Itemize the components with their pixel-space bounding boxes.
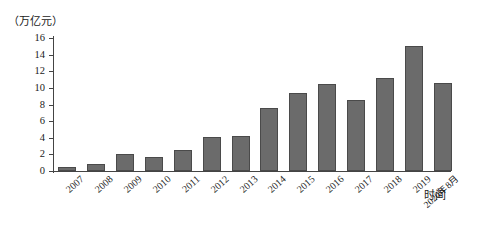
bar <box>203 137 221 171</box>
bar <box>376 78 394 171</box>
bar <box>58 167 76 171</box>
bar-series <box>53 38 457 171</box>
bar-chart: （万亿元） 1614121086420 20072008200920102011… <box>0 0 479 225</box>
x-axis-tick-label: 2007 <box>65 174 87 195</box>
y-axis-tick-label: 6 <box>40 116 45 127</box>
bar <box>347 100 365 171</box>
x-axis-tick-label: 2018 <box>382 174 404 195</box>
x-axis-tick-label: 2010 <box>151 174 173 195</box>
x-axis-tick-label: 2012 <box>209 174 231 195</box>
plot-area: 1614121086420 <box>53 38 457 171</box>
x-axis-labels: 2007200820092010201120122013201420152016… <box>53 172 457 224</box>
x-axis-title: 时间 <box>424 186 446 202</box>
x-axis-tick-label: 2009 <box>122 174 144 195</box>
x-axis-tick-label: 2014 <box>267 174 289 195</box>
y-axis-tick-label: 2 <box>40 149 45 160</box>
x-axis-tick-label: 2016 <box>324 174 346 195</box>
bar <box>145 157 163 171</box>
bar <box>434 83 452 171</box>
bar <box>232 136 250 171</box>
y-axis-unit-label: （万亿元） <box>8 12 63 28</box>
bar <box>87 164 105 171</box>
x-axis-tick-label: 2013 <box>238 174 260 195</box>
bar <box>174 150 192 171</box>
x-axis-tick-label: 2015 <box>295 174 317 195</box>
y-axis-tick-label: 10 <box>35 83 46 94</box>
bar <box>318 84 336 171</box>
bar <box>116 154 134 171</box>
bar <box>260 108 278 171</box>
bar <box>405 46 423 171</box>
y-axis-tick-label: 16 <box>35 33 46 44</box>
bar <box>289 93 307 171</box>
x-axis-tick-label: 2008 <box>93 174 115 195</box>
y-axis-tick-label: 14 <box>35 49 46 60</box>
y-axis-tick-label: 8 <box>40 99 45 110</box>
x-axis-tick-label: 2017 <box>353 174 375 195</box>
y-axis-tick-label: 0 <box>40 166 45 177</box>
y-axis-tick-label: 12 <box>35 66 46 77</box>
x-axis-tick-label: 2011 <box>180 174 201 195</box>
y-axis-tick-label: 4 <box>40 133 45 144</box>
